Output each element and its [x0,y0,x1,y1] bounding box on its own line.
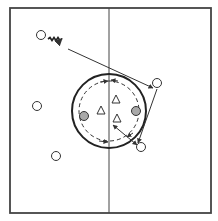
player-circle [52,152,61,161]
shaded-player [80,112,89,121]
player-circle [33,102,42,111]
drill-diagram [0,0,218,221]
player-circle [37,31,46,40]
player-circle [153,79,162,88]
player-circle [137,143,146,152]
shaded-player [132,107,141,116]
